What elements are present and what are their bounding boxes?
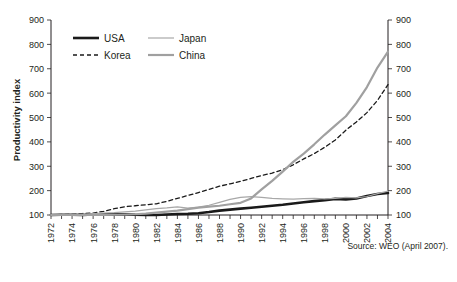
productivity-index-chart: 100200300400500600700800900 100200300400… <box>0 0 457 282</box>
y-tick-label: 200 <box>29 186 44 196</box>
x-tick-label: 1982 <box>152 223 162 243</box>
y-tick-label: 700 <box>29 64 44 74</box>
legend-label-japan: Japan <box>179 33 206 44</box>
y-right-tick-label: 300 <box>396 162 411 172</box>
y-right-tick-label: 100 <box>396 210 411 220</box>
x-tick-label: 1976 <box>89 223 99 243</box>
legend-label-usa: USA <box>104 33 125 44</box>
x-tick-label: 1974 <box>67 223 77 243</box>
y-tick-label: 800 <box>29 40 44 50</box>
y-tick-label: 100 <box>29 210 44 220</box>
x-tick-label: 1984 <box>173 223 183 243</box>
y-tick-label: 400 <box>29 137 44 147</box>
y-tick-label: 900 <box>29 15 44 25</box>
y-right-tick-label: 800 <box>396 40 411 50</box>
y-tick-label: 600 <box>29 89 44 99</box>
x-tick-label: 1996 <box>299 223 309 243</box>
x-tick-label: 1986 <box>194 223 204 243</box>
y-right-tick-labels: 100200300400500600700800900 <box>396 15 411 220</box>
y-right-tick-label: 200 <box>396 186 411 196</box>
x-tick-label: 1994 <box>278 223 288 243</box>
y-axis-title: Productivity index <box>11 78 22 161</box>
y-right-tick-label: 500 <box>396 113 411 123</box>
y-right-tick-label: 600 <box>396 89 411 99</box>
x-tick-label: 1978 <box>110 223 120 243</box>
x-tick-label: 1998 <box>320 223 330 243</box>
y-tick-labels: 100200300400500600700800900 <box>29 15 44 220</box>
y-right-tick-label: 900 <box>396 15 411 25</box>
x-tick-labels: 1972197419761978198019821984198619881990… <box>46 223 393 243</box>
legend-label-china: China <box>179 50 206 61</box>
y-right-tick-label: 700 <box>396 64 411 74</box>
x-tick-label: 1972 <box>46 223 56 243</box>
y-tick-label: 500 <box>29 113 44 123</box>
x-tick-label: 1980 <box>131 223 141 243</box>
source-note: Source: WEO (April 2007). <box>347 241 448 251</box>
legend-label-korea: Korea <box>104 50 131 61</box>
y-tick-label: 300 <box>29 162 44 172</box>
x-tick-label: 1990 <box>236 223 246 243</box>
x-tick-label: 1992 <box>257 223 267 243</box>
y-right-tick-label: 400 <box>396 137 411 147</box>
x-tick-label: 1988 <box>215 223 225 243</box>
